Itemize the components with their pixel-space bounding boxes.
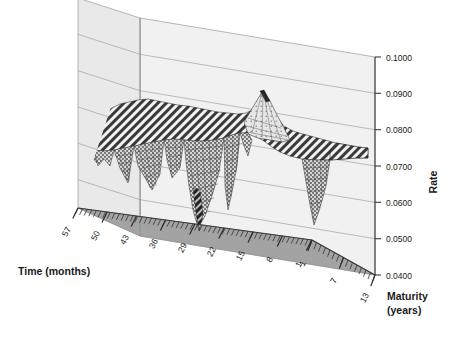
rate-axis-ticks xyxy=(375,57,381,275)
time-tick-57: 57 xyxy=(60,225,73,238)
rate-tick-6: 0.0400 xyxy=(386,271,412,281)
time-axis-title: Time (months) xyxy=(18,265,90,277)
rate-tick-0: 0.1000 xyxy=(386,53,412,63)
rate-axis: 0.1000 0.0900 0.0800 0.0700 0.0600 0.050… xyxy=(375,53,439,281)
time-tick-50: 50 xyxy=(89,229,102,242)
surface-plot-svg: 0.1000 0.0900 0.0800 0.0700 0.0600 0.050… xyxy=(0,0,458,339)
rate-tick-1: 0.0900 xyxy=(386,89,412,99)
maturity-tick-13: 13 xyxy=(358,291,371,304)
maturity-axis-title-line1: Maturity xyxy=(387,290,428,302)
rate-axis-title: Rate xyxy=(427,170,439,193)
time-tick-43: 43 xyxy=(118,233,131,246)
maturity-axis-title-line2: (years) xyxy=(387,304,421,316)
maturity-tick-7: 7 xyxy=(328,276,339,285)
surface-chart-container: 0.1000 0.0900 0.0800 0.0700 0.0600 0.050… xyxy=(0,0,458,339)
rate-tick-5: 0.0500 xyxy=(386,234,412,244)
rate-tick-4: 0.0600 xyxy=(386,198,412,208)
rate-tick-3: 0.0700 xyxy=(386,162,412,172)
rate-tick-2: 0.0800 xyxy=(386,125,412,135)
